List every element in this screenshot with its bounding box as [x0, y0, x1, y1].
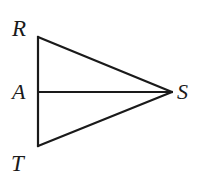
vertex-label-s: S	[177, 81, 188, 103]
segment-TS	[38, 92, 172, 146]
figure-canvas	[0, 0, 204, 187]
vertex-label-t: T	[11, 152, 24, 175]
segment-RS	[38, 37, 172, 92]
vertex-label-r: R	[12, 17, 26, 40]
vertex-label-a: A	[12, 81, 25, 103]
geometry-figure: R A T S	[0, 0, 204, 187]
